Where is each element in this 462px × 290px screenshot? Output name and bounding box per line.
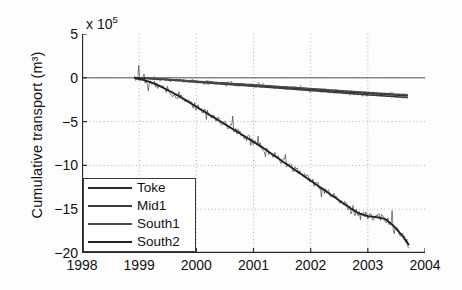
legend-item-south1[interactable]: South1 [84, 215, 195, 233]
y-tick-label: 0 [70, 71, 78, 85]
y-tick-label: 5 [70, 27, 78, 41]
x-tick-label: 2001 [228, 258, 280, 272]
x-axis-ticks: 1998199920002001200220032004 [82, 258, 425, 278]
y-tick-label: −10 [54, 158, 78, 172]
legend-item-mid1[interactable]: Mid1 [84, 197, 195, 215]
x-tick-label: 1998 [56, 258, 108, 272]
legend-label: South1 [137, 217, 180, 231]
series-line-south1 [135, 78, 408, 95]
legend-item-toke[interactable]: Toke [84, 179, 195, 197]
x-tick-label: 1999 [113, 258, 165, 272]
legend-swatch-toke [88, 187, 132, 189]
legend: TokeMid1South1South2 [83, 178, 196, 252]
legend-swatch-south1 [88, 223, 132, 225]
legend-label: South2 [137, 235, 180, 249]
chart-figure: Cumulative transport (m³) x 105 50−5−10−… [0, 0, 462, 290]
y-tick-label: −5 [62, 115, 78, 129]
legend-item-south2[interactable]: South2 [84, 233, 195, 251]
legend-label: Mid1 [137, 199, 166, 213]
legend-swatch-mid1 [88, 205, 132, 207]
y-axis-multiplier-base: x 10 [86, 16, 112, 32]
y-tick-label: −15 [54, 202, 78, 216]
y-axis-multiplier: x 105 [86, 14, 118, 32]
x-tick-label: 2003 [342, 258, 394, 272]
x-tick-label: 2002 [285, 258, 337, 272]
legend-label: Toke [137, 181, 166, 195]
y-axis-ticks: 50−5−10−15−20 [40, 34, 78, 253]
x-tick-label: 2004 [399, 258, 451, 272]
x-tick-label: 2000 [170, 258, 222, 272]
y-axis-multiplier-exponent: 5 [112, 14, 117, 25]
legend-swatch-south2 [88, 241, 132, 243]
